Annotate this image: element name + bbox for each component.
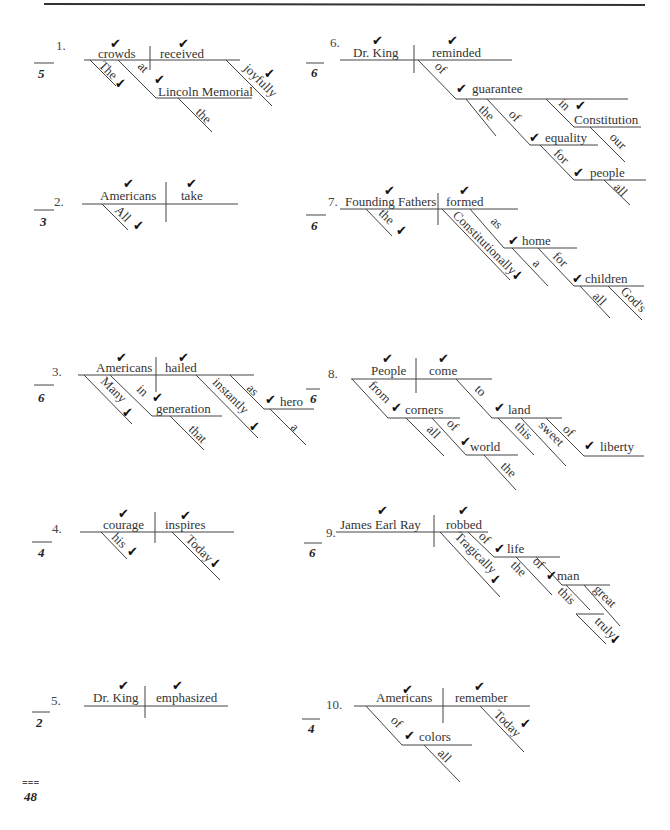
problem-number: 9. [326, 525, 336, 540]
check-icon: ✔ [575, 98, 586, 113]
check-icon: ✔ [456, 81, 467, 96]
check-icon: ✔ [490, 572, 501, 587]
check-icon: ✔ [264, 66, 275, 81]
object-word: home [522, 233, 551, 248]
diagram-7: 7. 6 ✔ Founding Fathers ✔ formed the ✔ C… [306, 183, 650, 320]
modifier-word: all [435, 746, 455, 766]
check-icon: ✔ [610, 632, 621, 647]
check-icon: ✔ [265, 392, 276, 407]
extra-score: 6 [310, 391, 317, 406]
modifier-word: the [476, 102, 498, 124]
diagram-8: 8. ✔ People ✔ come from ✔ corners all of… [328, 351, 644, 490]
check-icon: ✔ [122, 405, 133, 420]
modifier-word: All [112, 203, 135, 226]
diagram-3: 3. 6 ✔ Americans ✔ hailed Many ✔ in ✔ ge… [34, 350, 320, 450]
total-value: 48 [23, 789, 38, 804]
subject-word: Dr. King [353, 45, 399, 60]
check-icon: ✔ [458, 503, 469, 518]
diagram-10: 10. 4 ✔ Americans ✔ remember of ✔ colors… [302, 679, 531, 782]
check-icon: ✔ [404, 728, 415, 743]
object-word: children [585, 271, 628, 286]
problem-number: 1. [56, 38, 66, 53]
modifier-word: that [186, 422, 211, 447]
check-icon: ✔ [210, 556, 221, 571]
check-icon: ✔ [494, 400, 505, 415]
subject-word: courage [103, 517, 144, 532]
diagram-9: 9. 6 ✔ James Earl Ray ✔ robbed Tragicall… [304, 503, 621, 647]
object-word: Lincoln Memorial [158, 84, 253, 99]
subject-word: Americans [376, 690, 432, 705]
modifier-word: the [498, 459, 520, 481]
total-score: === 48 [22, 777, 39, 804]
diagram-6: 6. 6 ✔ Dr. King ✔ reminded of ✔ guarante… [306, 33, 646, 205]
check-icon: ✔ [520, 716, 531, 731]
score: 6 [311, 65, 318, 80]
object-word: man [557, 568, 580, 583]
object-word: Constitution [574, 112, 639, 127]
verb-word: come [429, 363, 457, 378]
problem-number: 6. [330, 35, 340, 50]
preposition-word: to [472, 382, 490, 400]
subject-word: Dr. King [93, 690, 139, 705]
check-icon: ✔ [127, 544, 138, 559]
object-word: people [590, 165, 625, 180]
preposition-word: as [244, 381, 262, 399]
subject-word: crowds [98, 46, 136, 61]
diagram-2: 2. 3 ✔ Americans ✔ take All ✔ [34, 176, 238, 233]
check-icon: ✔ [584, 438, 595, 453]
problem-number: 4. [52, 521, 62, 536]
problem-number: 10. [326, 697, 342, 712]
object-word: equality [545, 130, 587, 145]
preposition-word: of [432, 59, 451, 78]
preposition-word: for [550, 249, 572, 271]
modifier-word: a [288, 420, 303, 435]
modifier-word: great [591, 582, 620, 611]
diagram-4: 4. 4 ✔ courage ✔ inspires his ✔ Today ✔ [32, 506, 234, 580]
verb-word: remember [455, 690, 508, 705]
worksheet: 1. 5 ✔ crowds ✔ received The ✔ at ✔ Linc… [0, 0, 670, 830]
subject-word: James Earl Ray [340, 517, 421, 532]
object-word: corners [405, 402, 443, 417]
check-icon: ✔ [494, 541, 505, 556]
object-word: generation [156, 401, 211, 416]
subject-word: Americans [100, 188, 156, 203]
check-icon: ✔ [391, 400, 402, 415]
modifier-line [406, 418, 444, 456]
problem-number: 7. [328, 194, 338, 209]
check-icon: ✔ [572, 271, 583, 286]
object-word: life [507, 541, 525, 556]
score: 3 [39, 214, 47, 229]
score: 6 [309, 545, 316, 560]
score: 4 [37, 545, 45, 560]
modifier-word: God's [618, 284, 650, 316]
modifier-word: the [193, 105, 215, 127]
check-icon: ✔ [115, 76, 126, 91]
preposition-word: in [134, 382, 152, 400]
verb-word: inspires [165, 517, 205, 532]
check-icon: ✔ [396, 223, 407, 238]
problem-number: 2. [54, 194, 64, 209]
subject-word: Americans [96, 360, 152, 375]
score: 6 [38, 390, 45, 405]
score: 5 [38, 66, 45, 81]
object-word: hero [280, 394, 303, 409]
modifier-word: a [530, 256, 545, 271]
preposition-line [487, 99, 530, 145]
problem-number: 3. [52, 364, 62, 379]
check-icon: ✔ [512, 268, 523, 283]
verb-word: formed [446, 194, 484, 209]
check-icon: ✔ [546, 568, 557, 583]
object-word: world [470, 439, 501, 454]
preposition-word: as [488, 214, 506, 232]
object-word: liberty [600, 439, 634, 454]
check-icon: ✔ [133, 218, 144, 233]
verb-word: received [160, 46, 205, 61]
modifier-word: this [555, 584, 579, 608]
verb-word: reminded [432, 45, 482, 60]
object-word: colors [419, 729, 451, 744]
score: 6 [311, 218, 318, 233]
score: 2 [35, 715, 43, 730]
check-icon: ✔ [508, 233, 519, 248]
check-icon: ✔ [377, 503, 388, 518]
check-icon: ✔ [249, 419, 260, 434]
